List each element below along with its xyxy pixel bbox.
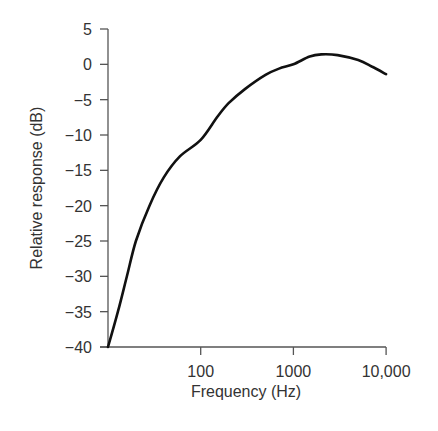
- y-axis-title: Relative response (dB): [28, 107, 45, 270]
- x-tick-label: 10,000: [362, 363, 411, 380]
- y-tick-label: 0: [83, 56, 92, 73]
- y-tick-label: 5: [83, 21, 92, 38]
- y-tick-label: −35: [65, 304, 92, 321]
- y-tick-label: −15: [65, 162, 92, 179]
- y-tick-label: −10: [65, 127, 92, 144]
- y-tick-label: −30: [65, 268, 92, 285]
- x-axis-title: Frequency (Hz): [191, 383, 301, 400]
- y-tick-label: −40: [65, 339, 92, 356]
- y-tick-label: −5: [74, 92, 92, 109]
- chart: 50−5−10−15−20−25−30−35−40 100100010,000 …: [0, 0, 438, 431]
- x-tick-label: 1000: [276, 363, 312, 380]
- x-axis-ticks: 100100010,000: [187, 347, 410, 380]
- x-tick-label: 100: [187, 363, 214, 380]
- response-curve: [108, 54, 386, 347]
- y-tick-label: −20: [65, 198, 92, 215]
- y-axis-ticks: 50−5−10−15−20−25−30−35−40: [65, 21, 108, 356]
- y-tick-label: −25: [65, 233, 92, 250]
